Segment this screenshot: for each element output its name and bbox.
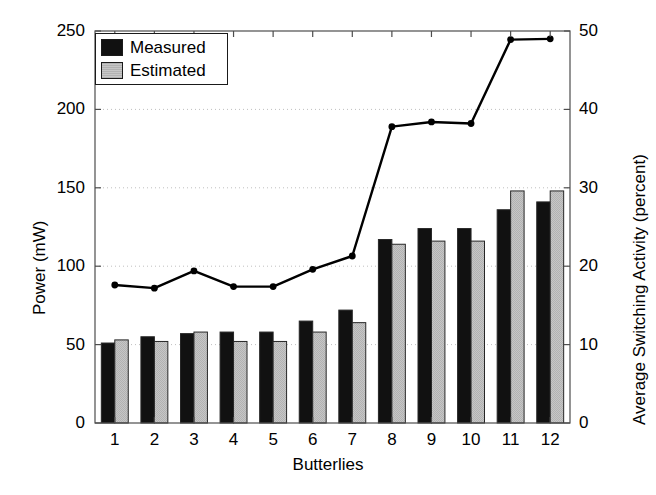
line-marker-3 xyxy=(191,268,198,275)
x-tick-7: 7 xyxy=(332,430,372,450)
x-tick-3: 3 xyxy=(174,430,214,450)
line-marker-7 xyxy=(349,253,356,260)
y-tick-right-40: 40 xyxy=(579,99,639,119)
y-tick-left-0: 0 xyxy=(25,413,85,433)
line-marker-2 xyxy=(151,285,158,292)
x-tick-10: 10 xyxy=(451,430,491,450)
y-tick-left-150: 150 xyxy=(25,178,85,198)
x-axis-title: Butterlies xyxy=(0,455,656,475)
y-tick-left-200: 200 xyxy=(25,99,85,119)
x-tick-12: 12 xyxy=(530,430,570,450)
bar-estimated-5 xyxy=(273,341,286,423)
y-tick-left-250: 250 xyxy=(25,21,85,41)
bar-estimated-1 xyxy=(115,340,128,423)
line-marker-1 xyxy=(111,282,118,289)
line-marker-11 xyxy=(507,36,514,43)
x-tick-5: 5 xyxy=(253,430,293,450)
bar-measured-6 xyxy=(299,321,312,423)
legend-item-measured: Measured xyxy=(101,37,206,58)
x-tick-6: 6 xyxy=(293,430,333,450)
bar-measured-12 xyxy=(537,202,550,423)
bar-measured-7 xyxy=(339,310,352,423)
line-marker-10 xyxy=(468,120,475,127)
legend-item-estimated: Estimated xyxy=(101,60,206,81)
bar-estimated-4 xyxy=(234,341,247,423)
x-tick-9: 9 xyxy=(411,430,451,450)
bar-estimated-7 xyxy=(352,323,365,423)
legend-swatch-estimated xyxy=(101,62,123,79)
bar-measured-1 xyxy=(101,343,114,423)
legend-label-estimated: Estimated xyxy=(130,62,206,79)
bar-estimated-3 xyxy=(194,332,207,423)
x-tick-11: 11 xyxy=(491,430,531,450)
legend-label-measured: Measured xyxy=(130,39,206,56)
bar-measured-10 xyxy=(458,229,471,423)
bar-estimated-10 xyxy=(471,241,484,423)
line-marker-5 xyxy=(270,283,277,290)
x-tick-1: 1 xyxy=(95,430,135,450)
x-tick-8: 8 xyxy=(372,430,412,450)
y-axis-right-title: Average Switching Activity (percent) xyxy=(630,154,650,425)
y-tick-left-50: 50 xyxy=(25,335,85,355)
line-marker-4 xyxy=(230,283,237,290)
legend-swatch-measured xyxy=(101,39,123,56)
line-marker-8 xyxy=(388,123,395,130)
bar-estimated-12 xyxy=(550,191,563,423)
chart-legend: Measured Estimated xyxy=(95,33,228,85)
y-tick-right-50: 50 xyxy=(579,21,639,41)
bar-measured-4 xyxy=(220,332,233,423)
bars-group xyxy=(101,191,563,423)
bar-measured-2 xyxy=(141,337,154,423)
bar-estimated-11 xyxy=(511,191,524,423)
bar-measured-3 xyxy=(181,334,194,423)
y-axis-left-title: Power (mW) xyxy=(30,221,50,315)
bar-estimated-8 xyxy=(392,244,405,423)
bar-estimated-2 xyxy=(154,341,167,423)
bar-estimated-9 xyxy=(431,241,444,423)
x-tick-4: 4 xyxy=(214,430,254,450)
figure-container: 050100150200250 01020304050 123456789101… xyxy=(0,0,656,495)
x-tick-2: 2 xyxy=(134,430,174,450)
line-marker-9 xyxy=(428,119,435,126)
bar-measured-9 xyxy=(418,229,431,423)
line-marker-6 xyxy=(309,266,316,273)
bar-estimated-6 xyxy=(313,332,326,423)
bar-measured-8 xyxy=(378,240,391,423)
bar-measured-11 xyxy=(497,210,510,423)
bar-measured-5 xyxy=(260,332,273,423)
